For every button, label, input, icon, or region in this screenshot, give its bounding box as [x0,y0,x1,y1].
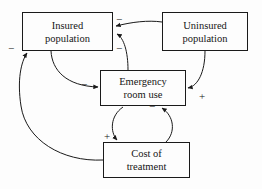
edge-sign-cost-to-emergency: − [149,101,155,112]
node-cost-of-treatment[interactable]: Cost of treatment [103,142,190,178]
edge-insured-to-emergency [51,51,98,87]
edge-sign-emergency-to-insured: − [116,43,122,54]
node-uninsured-population-line1: Uninsured [183,19,227,32]
node-emergency-room-use-line1: Emergency [119,75,167,88]
edge-sign-uninsured-to-emergency: + [199,91,205,102]
edge-cost-to-emergency [162,108,172,142]
node-emergency-room-use-line2: room use [124,88,163,101]
edge-sign-emergency-to-cost: + [104,131,110,142]
node-emergency-room-use[interactable]: Emergency room use [100,70,186,106]
edge-sign-cost-to-insured: − [8,43,14,54]
edge-cost-to-insured [19,53,103,160]
node-insured-population-line2: population [45,32,90,45]
node-cost-of-treatment-line1: Cost of [131,147,162,160]
node-uninsured-population[interactable]: Uninsured population [162,12,248,51]
edge-sign-uninsured-to-insured: − [116,14,122,25]
edge-uninsured-to-emergency [188,51,205,88]
edge-emergency-to-cost [112,107,123,140]
node-insured-population-line1: Insured [52,19,84,32]
node-uninsured-population-line2: population [183,32,228,45]
edge-sign-insured-to-emergency: − [81,79,87,90]
node-insured-population[interactable]: Insured population [22,12,113,51]
causal-loop-diagram: Insured population Uninsured population … [0,0,262,189]
edge-uninsured-to-insured [116,21,162,26]
node-cost-of-treatment-line2: treatment [127,160,167,173]
